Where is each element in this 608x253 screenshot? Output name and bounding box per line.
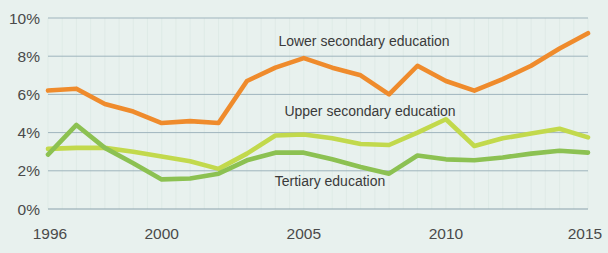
line-chart: 0%2%4%6%8%10% 19962000200520102015 Lower… — [0, 0, 608, 253]
series-label-tertiary-education: Tertiary education — [275, 173, 386, 189]
series-label-lower-secondary-education: Lower secondary education — [278, 33, 449, 49]
y-axis-tick-label: 10% — [9, 10, 40, 27]
y-axis-tick-label: 0% — [18, 201, 41, 218]
y-axis-tick-label: 2% — [18, 162, 41, 179]
x-axis-tick-label: 2015 — [568, 225, 602, 242]
series-label-upper-secondary-education: Upper secondary education — [284, 103, 455, 119]
y-axis-tick-label: 8% — [18, 48, 41, 65]
y-axis-tick-label: 6% — [18, 86, 41, 103]
x-axis-tick-label: 2005 — [287, 225, 321, 242]
x-axis-tick-label: 1996 — [33, 225, 67, 242]
y-axis-tick-label: 4% — [18, 124, 41, 141]
chart-canvas: 0%2%4%6%8%10% 19962000200520102015 Lower… — [0, 0, 608, 253]
x-axis-tick-label: 2010 — [429, 225, 464, 242]
x-axis-tick-label: 2000 — [144, 225, 179, 242]
